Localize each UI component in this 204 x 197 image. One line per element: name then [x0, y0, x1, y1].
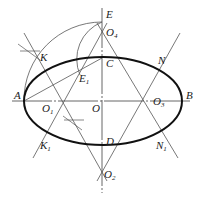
- label-b: B: [186, 89, 193, 101]
- ellipse-construction-diagram: E O4 C K N E1 A B O1 O O3 K1 D N1 O2: [0, 0, 204, 197]
- arc-e-e1: [77, 22, 102, 75]
- label-k1: K1: [39, 139, 51, 153]
- bisector-mark-top-1: [18, 44, 40, 60]
- label-a: A: [13, 89, 21, 101]
- line-o2-n: [97, 33, 180, 181]
- label-d: D: [105, 135, 114, 147]
- label-o3: O3: [153, 95, 165, 109]
- line-o4-k1: [33, 23, 107, 158]
- label-c: C: [106, 57, 114, 69]
- label-o: O: [92, 102, 100, 114]
- label-n: N: [157, 54, 166, 66]
- bisector-mark-bot-1: [63, 116, 82, 130]
- line-a-c: [24, 58, 102, 101]
- label-o4: O4: [106, 26, 118, 40]
- label-o1: O1: [42, 102, 53, 116]
- label-o2: O2: [104, 168, 116, 182]
- label-e: E: [105, 8, 113, 20]
- arc-a-e: [24, 22, 102, 101]
- diagram-canvas: E O4 C K N E1 A B O1 O O3 K1 D N1 O2: [0, 0, 204, 197]
- label-n1: N1: [155, 139, 167, 153]
- label-e1: E1: [78, 72, 89, 86]
- label-k: K: [39, 51, 48, 63]
